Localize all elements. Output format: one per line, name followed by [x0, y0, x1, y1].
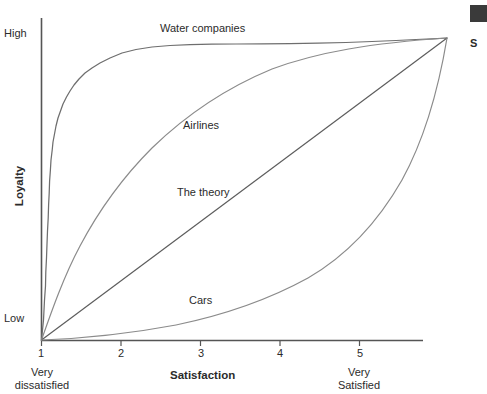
- x-axis-right-caption-line2: Satisfied: [328, 379, 390, 392]
- x-tick-label-3: 3: [191, 347, 211, 359]
- series-curve-theory: [42, 38, 448, 340]
- series-label-airlines: Airlines: [183, 119, 219, 131]
- page-edge-letter: S: [470, 37, 477, 49]
- x-axis-right-caption: Very Satisfied: [328, 366, 390, 392]
- x-tick-label-5: 5: [350, 347, 370, 359]
- loyalty-satisfaction-chart: High Low Loyalty 1 2 3 4 5 Satisfaction …: [0, 0, 487, 394]
- x-tick-label-1: 1: [31, 347, 51, 359]
- x-axis-title: Satisfaction: [170, 369, 235, 381]
- x-tick-label-4: 4: [270, 347, 290, 359]
- x-axis-left-caption-line1: Very: [12, 366, 72, 379]
- x-axis-left-caption: Very dissatisfied: [12, 366, 72, 392]
- series-label-water-companies: Water companies: [160, 22, 245, 34]
- x-axis-right-caption-line1: Very: [328, 366, 390, 379]
- series-label-cars: Cars: [189, 294, 212, 306]
- y-axis-low-label: Low: [4, 312, 24, 324]
- x-axis-ticks: [42, 341, 360, 347]
- y-axis-title: Loyalty: [13, 158, 25, 214]
- chart-canvas: [0, 0, 487, 394]
- series-label-the-theory: The theory: [177, 186, 230, 198]
- x-axis-left-caption-line2: dissatisfied: [12, 379, 72, 392]
- y-axis-high-label: High: [4, 27, 27, 39]
- page-edge-block: [470, 5, 487, 22]
- x-tick-label-2: 2: [111, 347, 131, 359]
